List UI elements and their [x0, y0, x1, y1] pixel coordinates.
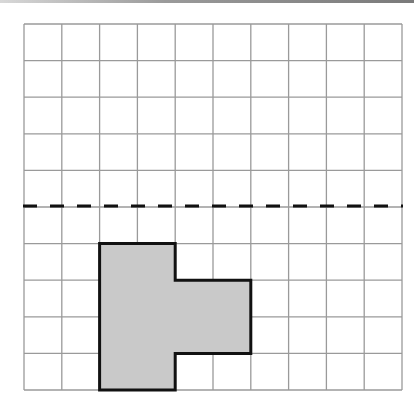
shaded-shape	[100, 244, 251, 390]
grid-canvas	[0, 0, 414, 415]
reflection-grid-figure	[0, 0, 414, 415]
